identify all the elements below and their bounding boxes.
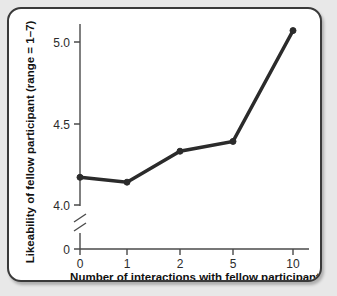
data-point [290, 28, 296, 34]
x-tick-label-10: 10 [286, 257, 300, 271]
figure-frame: Likeability of fellow participant (range… [7, 7, 322, 282]
y-tick-label-4-5: 4.5 [53, 118, 70, 132]
x-axis-title: Number of interactions with fellow parti… [70, 271, 320, 280]
data-point [124, 179, 130, 185]
data-line-likeability [80, 31, 293, 183]
y-axis-title: Likeability of fellow participant (range… [24, 21, 36, 264]
x-tick-label-1: 1 [124, 257, 131, 271]
y-tick-label-4-0: 4.0 [53, 199, 70, 213]
data-markers-group [77, 28, 296, 186]
data-point [77, 174, 83, 180]
data-point [177, 148, 183, 154]
y-axis-break-icon [74, 214, 86, 231]
x-tick-label-5: 5 [230, 257, 237, 271]
line-chart: Likeability of fellow participant (range… [9, 9, 320, 280]
x-tick-label-2: 2 [177, 257, 184, 271]
x-tick-label-0: 0 [77, 257, 84, 271]
y-tick-label-0: 0 [63, 243, 70, 257]
y-tick-label-5-0: 5.0 [53, 36, 70, 50]
data-point [230, 138, 236, 144]
